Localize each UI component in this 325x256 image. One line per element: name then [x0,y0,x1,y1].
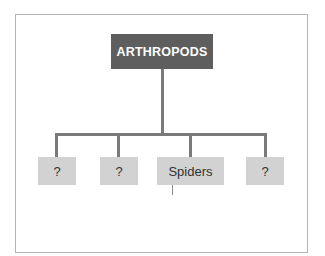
child-label: ? [53,164,60,179]
child-node-unknown-1: ? [38,157,76,185]
branch-connector-1 [55,133,58,157]
child-node-spiders: Spiders [157,157,224,185]
horizontal-branch-connector [55,133,267,136]
child-label: ? [261,164,268,179]
root-label: ARTHROPODS [117,45,208,59]
child-label: ? [115,164,122,179]
child-node-unknown-2: ? [100,157,138,185]
root-node-arthropods: ARTHROPODS [111,34,213,69]
root-trunk-connector [161,69,164,135]
child-label: Spiders [168,164,212,179]
child-node-unknown-3: ? [246,157,284,185]
branch-connector-2 [117,133,120,157]
stray-pen-mark [172,185,173,195]
branch-connector-3 [189,133,192,157]
branch-connector-4 [264,133,267,157]
